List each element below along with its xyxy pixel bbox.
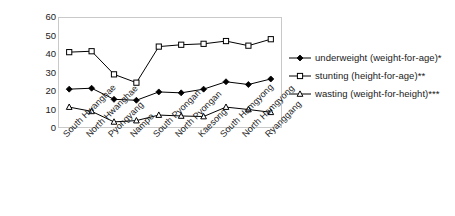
legend-marker-open-square-icon bbox=[288, 70, 312, 82]
legend-marker-open-triangle-icon bbox=[288, 88, 312, 100]
data-point-filled-diamond bbox=[178, 90, 184, 96]
x-axis-tick-labels: South HwanghaeNorth HwanghaePyongyangNam… bbox=[0, 128, 300, 216]
legend-item[interactable]: underweight (weight-for-age)* bbox=[288, 50, 453, 65]
legend-marker-filled-diamond-icon bbox=[288, 52, 312, 64]
series-line bbox=[69, 39, 271, 82]
data-point-open-square bbox=[246, 43, 251, 48]
legend-item-label: wasting (weight-for-height)*** bbox=[315, 88, 440, 99]
data-point-filled-diamond bbox=[223, 79, 229, 85]
data-point-open-square bbox=[89, 49, 94, 54]
y-axis-tick-label: 50 bbox=[34, 31, 56, 41]
data-point-open-square bbox=[223, 38, 228, 43]
data-point-open-triangle bbox=[66, 104, 72, 109]
chart-legend: underweight (weight-for-age)*stunting (h… bbox=[288, 50, 453, 104]
data-point-open-square bbox=[201, 41, 206, 46]
data-point-filled-diamond bbox=[156, 89, 162, 95]
data-point-filled-diamond bbox=[201, 86, 207, 92]
chart-figure: prevalence in percent 6050403020100 Sout… bbox=[0, 0, 455, 216]
legend-item-label: underweight (weight-for-age)* bbox=[315, 52, 442, 63]
data-point-open-square bbox=[156, 44, 161, 49]
legend-item-label: stunting (height-for-age)** bbox=[315, 70, 425, 81]
data-point-filled-diamond bbox=[89, 85, 95, 91]
legend-item[interactable]: wasting (weight-for-height)*** bbox=[288, 86, 453, 101]
y-axis-tick-label: 40 bbox=[34, 49, 56, 59]
y-axis-tick-labels: 6050403020100 bbox=[34, 12, 56, 132]
data-point-filled-diamond bbox=[297, 55, 303, 61]
data-point-open-square bbox=[268, 37, 273, 42]
legend-item[interactable]: stunting (height-for-age)** bbox=[288, 68, 453, 83]
y-axis-tick-label: 20 bbox=[34, 86, 56, 96]
data-point-open-square bbox=[179, 42, 184, 47]
y-axis-tick-label: 10 bbox=[34, 105, 56, 115]
data-point-open-square bbox=[297, 73, 302, 78]
y-axis-tick-label: 60 bbox=[34, 12, 56, 22]
series-1 bbox=[67, 37, 274, 86]
data-point-open-square bbox=[67, 50, 72, 55]
data-point-open-square bbox=[111, 72, 116, 77]
y-axis-tick-label: 30 bbox=[34, 68, 56, 78]
data-point-filled-diamond bbox=[245, 82, 251, 88]
data-point-filled-diamond bbox=[66, 86, 72, 92]
data-point-filled-diamond bbox=[268, 76, 274, 82]
